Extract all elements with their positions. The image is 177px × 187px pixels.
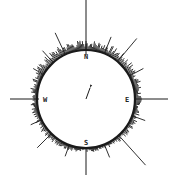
label-south: S — [84, 139, 88, 147]
long-spike — [104, 144, 109, 157]
long-spike — [117, 38, 136, 61]
circular-histogram: N E S W — [0, 0, 177, 187]
label-west: W — [43, 96, 48, 104]
long-spike — [129, 68, 143, 76]
mean-direction-arrow-icon — [86, 85, 92, 99]
long-spike — [119, 135, 146, 165]
long-spike — [43, 51, 54, 63]
label-east: E — [125, 96, 129, 104]
label-north: N — [84, 53, 88, 61]
long-spike — [37, 134, 51, 148]
